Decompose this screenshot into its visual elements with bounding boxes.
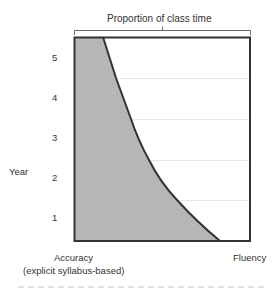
chart-title: Proportion of class time: [107, 13, 212, 24]
x-sublabel-accuracy: (explicit syllabus-based): [23, 265, 124, 276]
y-tick-2: 2: [52, 172, 57, 183]
x-label-fluency: Fluency: [233, 252, 266, 263]
y-axis-label: Year: [9, 166, 28, 177]
proportion-brace: [75, 27, 251, 36]
y-tick-1: 1: [52, 212, 57, 223]
chart-canvas: [0, 0, 276, 289]
y-tick-5: 5: [52, 52, 57, 63]
y-tick-4: 4: [52, 92, 57, 103]
cut-off-caption: [18, 284, 268, 289]
x-label-accuracy: Accuracy: [54, 252, 93, 263]
y-tick-3: 3: [52, 132, 57, 143]
